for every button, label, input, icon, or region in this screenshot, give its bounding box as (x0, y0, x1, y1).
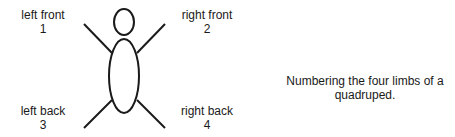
figure-caption: Numbering the four limbs of a quadruped. (280, 74, 450, 102)
head-shape (114, 9, 134, 35)
limb-right-front (137, 24, 165, 53)
quadruped-figure (0, 0, 455, 137)
limb-left-front (84, 24, 112, 53)
limb-left-back (84, 100, 112, 128)
limb-right-back (137, 100, 165, 128)
body-shape (109, 39, 139, 113)
